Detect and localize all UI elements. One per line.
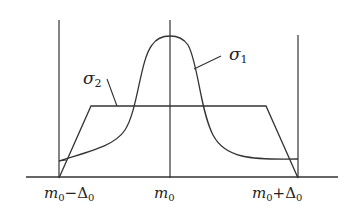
label-m0-plus-delta0: m0+Δ0 [252, 184, 302, 203]
sigma1-curve [59, 36, 298, 161]
sigma2-curve [59, 106, 298, 178]
sigma2-leader [107, 79, 117, 106]
sigma1-leader [194, 56, 221, 69]
sigma1-label: σ1 [229, 44, 248, 66]
label-m0-minus-delta0: m0−Δ0 [44, 184, 94, 203]
sigma2-label: σ2 [83, 68, 102, 90]
diagram-canvas: σ2 σ1 m0−Δ0 m0 m0+Δ0 [0, 0, 359, 215]
label-m0: m0 [154, 184, 175, 203]
